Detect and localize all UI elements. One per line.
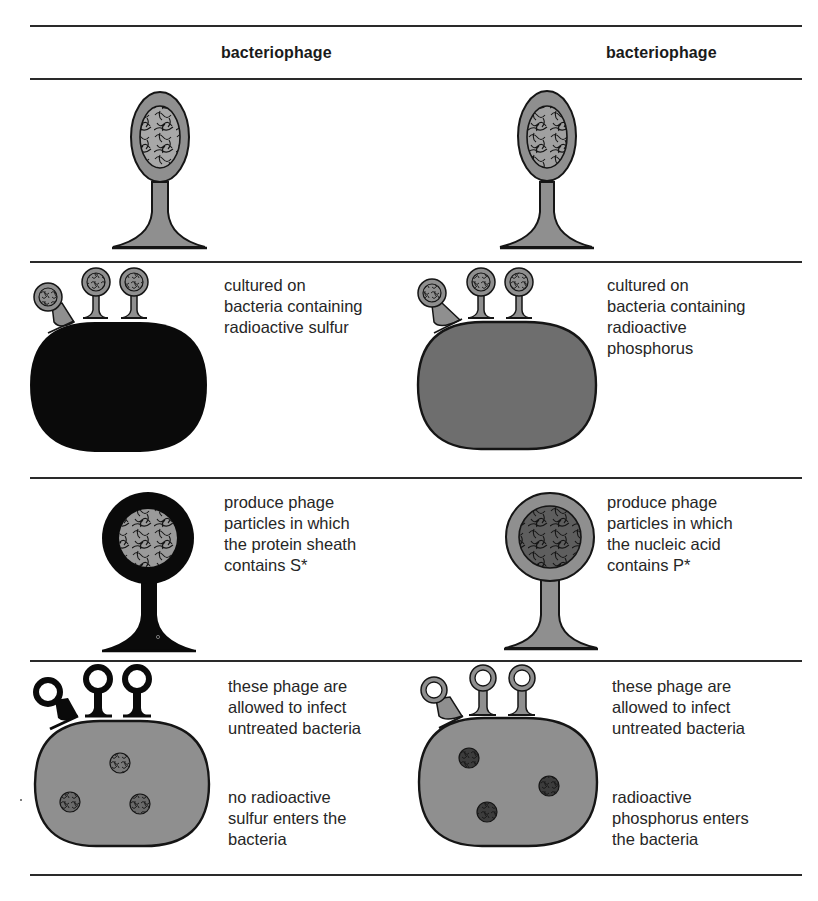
- empty-phage-gray-icon: [469, 665, 496, 715]
- bacterium-radioactive-phosphorus-icon: [418, 322, 596, 449]
- phage-labeled-nucleic-acid-icon: [504, 493, 598, 649]
- empty-phage-gray-icon: [508, 665, 535, 715]
- empty-phage-black-icon: [85, 667, 112, 716]
- small-phage-icon: [120, 268, 148, 318]
- bacterium-infected-phosphorus-icon: [419, 718, 597, 846]
- phage-right-icon: [500, 91, 594, 248]
- phage-left-icon: [112, 92, 207, 248]
- bacterium-radioactive-sulfur-icon: [30, 322, 207, 452]
- small-phage-icon: [505, 268, 533, 318]
- bacterium-infected-sulfur-icon: [35, 721, 209, 846]
- diagram-illustrations: [0, 0, 818, 901]
- phage-labeled-protein-icon: [102, 492, 196, 651]
- empty-phage-black-tilted-icon: [36, 680, 78, 729]
- empty-phage-black-icon: [123, 667, 151, 716]
- small-phage-icon: [467, 268, 495, 318]
- small-phage-icon: [82, 268, 110, 318]
- small-phage-tilted-icon: [34, 283, 74, 333]
- empty-phage-gray-tilted-icon: [421, 677, 463, 728]
